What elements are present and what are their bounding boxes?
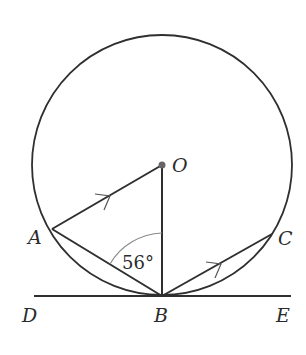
angle-label: 56° — [122, 252, 154, 273]
segment-bc — [162, 234, 272, 296]
label-a: A — [26, 226, 42, 248]
diagram-canvas: O A C D B E 56° — [0, 0, 306, 355]
label-b: B — [153, 304, 168, 326]
circle-geometry-figure: O A C D B E 56° — [0, 0, 306, 355]
center-dot — [159, 162, 166, 169]
label-c: C — [278, 227, 293, 249]
label-d: D — [21, 304, 37, 326]
segment-oa — [52, 165, 162, 229]
label-e: E — [275, 304, 290, 326]
label-o: O — [172, 154, 188, 176]
